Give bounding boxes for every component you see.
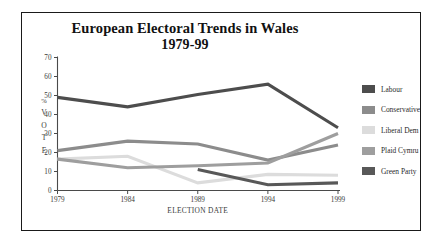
legend-item[interactable]: Conservative [362, 100, 440, 121]
legend-item[interactable]: Liberal Dem [362, 120, 440, 141]
legend-item-label: Green Party [381, 167, 417, 176]
y-axis-title-char: T [42, 133, 47, 142]
legend-color-swatch [362, 126, 375, 134]
legend-item[interactable]: Green Party [362, 161, 440, 182]
legend-item[interactable]: Plaid Cymru [362, 141, 440, 162]
chart-legend: LabourConservativeLiberal DemPlaid Cymru… [362, 79, 440, 182]
y-axis-title-char: % [41, 97, 47, 104]
x-axis-title: ELECTION DATE [167, 206, 228, 215]
x-tick-label: 1999 [331, 196, 346, 204]
y-axis-title: %VOTE [41, 97, 47, 155]
y-tick-label: 60 [44, 73, 52, 81]
legend-item[interactable]: Labour [362, 79, 440, 100]
x-tick-label: 1984 [120, 196, 135, 204]
y-tick-label: 70 [44, 54, 52, 62]
x-tick-label: 1979 [50, 196, 65, 204]
series-line [58, 84, 339, 128]
y-axis-title-char: E [42, 146, 47, 155]
x-tick-label: 1994 [261, 196, 276, 204]
legend-color-swatch [362, 106, 375, 114]
x-axis-title-text: ELECTION DATE [167, 206, 228, 215]
y-tick-label: 0 [48, 187, 52, 195]
legend-item-label: Liberal Dem [381, 126, 419, 135]
chart-figure: European Electoral Trends in Wales 1979-… [0, 0, 442, 244]
x-tick-label: 1989 [191, 196, 206, 204]
data-series-group [58, 84, 339, 185]
legend-color-swatch [362, 85, 375, 93]
legend-item-label: Conservative [381, 105, 420, 114]
series-line [58, 134, 339, 168]
legend-color-swatch [362, 167, 375, 175]
x-axis: 19791984198919941999 [50, 191, 345, 205]
y-tick-label: 10 [44, 168, 52, 176]
legend-item-label: Labour [381, 85, 402, 94]
y-axis-title-char: V [41, 108, 47, 117]
series-line [198, 170, 338, 185]
y-axis-title-char: O [41, 121, 47, 130]
legend-color-swatch [362, 147, 375, 155]
legend-item-label: Plaid Cymru [381, 146, 419, 155]
